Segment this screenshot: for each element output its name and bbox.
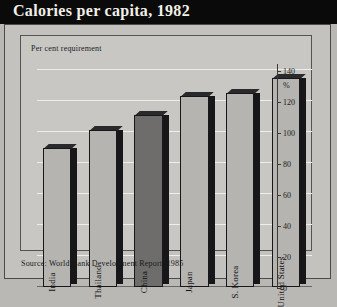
y-axis-tick-mark — [277, 102, 281, 103]
y-axis-tick-mark — [277, 226, 281, 227]
bar-category-label: Japan — [184, 271, 194, 293]
title-bar: Calories per capita, 1982 — [0, 0, 337, 24]
y-axis-tick-mark — [277, 71, 281, 72]
y-axis-tick-label: 60 — [283, 191, 291, 200]
y-axis-tick-label: 40 — [283, 222, 291, 231]
bar-category-label: India — [47, 272, 57, 292]
y-axis-tick-label: 80 — [283, 160, 291, 169]
y-axis-tick-mark — [277, 195, 281, 196]
y-axis-tick-mark — [277, 164, 281, 165]
bar-s-korea: S. Korea — [226, 93, 254, 287]
bar-category-label: Thailand — [93, 265, 103, 299]
y-axis: 020406080100120140% — [277, 64, 311, 288]
bar-side-face — [254, 93, 260, 284]
plot-note-label: Per cent requirement — [31, 44, 102, 53]
plot-frame: Per cent requirement IndiaThailandChinaJ… — [20, 35, 312, 251]
bar-category-label: S. Korea — [230, 265, 240, 298]
bar-front-face: Japan — [180, 96, 208, 287]
y-axis-tick-label: 100 — [283, 129, 295, 138]
y-axis-line — [277, 64, 278, 288]
y-axis-tick-label: 20 — [283, 253, 291, 262]
chart-panel: Per cent requirement IndiaThailandChinaJ… — [4, 24, 331, 279]
bar-series: IndiaThailandChinaJapanS. KoreaUnited St… — [37, 70, 312, 287]
bar-side-face — [209, 96, 215, 284]
y-axis-unit-label: % — [283, 81, 290, 90]
y-axis-tick-label: 120 — [283, 98, 295, 107]
chart-title: Calories per capita, 1982 — [13, 2, 190, 20]
source-note: Source: World Bank Development Report, 1… — [21, 259, 183, 268]
bar-front-face: S. Korea — [226, 93, 254, 287]
y-axis-tick-mark — [277, 257, 281, 258]
plot-area: IndiaThailandChinaJapanS. KoreaUnited St… — [37, 70, 312, 287]
y-axis-tick-mark — [277, 288, 281, 289]
y-axis-tick-label: 140 — [283, 67, 295, 76]
y-axis-tick-label: 0 — [283, 284, 287, 293]
bar-category-label: China — [139, 271, 149, 294]
y-axis-tick-mark — [277, 133, 281, 134]
bar-japan: Japan — [180, 96, 208, 287]
